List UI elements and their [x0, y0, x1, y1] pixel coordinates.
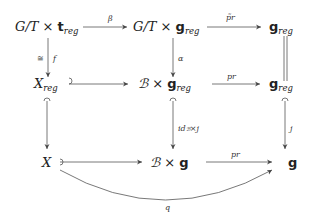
subscript: reg — [43, 83, 58, 93]
node-text: × — [160, 155, 179, 170]
frak-g: g — [179, 155, 188, 170]
node-greg-top: greg — [269, 20, 293, 33]
node-text: G/T × — [133, 19, 176, 34]
node-GT-x-greg: G/T × greg — [133, 20, 199, 33]
script-B: ℬ — [150, 155, 160, 170]
node-greg-mid: greg — [269, 77, 293, 90]
commutative-diagram: G/T × treg G/T × greg greg Xreg ℬ × greg… — [0, 0, 317, 220]
node-text: G/T × — [15, 19, 58, 34]
subscript: reg — [64, 26, 79, 36]
node-B-x-greg: ℬ × greg — [138, 77, 191, 90]
frak-t: t — [58, 19, 64, 34]
label-beta: β — [108, 15, 113, 23]
node-X: X — [42, 156, 51, 169]
subscript: reg — [278, 83, 293, 93]
label-times-j: ×j — [190, 124, 199, 133]
node-GT-x-treg: G/T × treg — [15, 20, 78, 33]
label-id-B-x-j: idℬ×j — [178, 125, 199, 133]
subscript: reg — [185, 26, 200, 36]
node-g: g — [288, 156, 297, 169]
node-Xreg: Xreg — [34, 77, 58, 90]
hook-j — [282, 98, 288, 101]
script-B: ℬ — [138, 76, 148, 91]
label-j: j — [290, 125, 292, 133]
node-text: X — [34, 76, 43, 91]
label-id: id — [178, 124, 186, 133]
subscript: reg — [278, 26, 293, 36]
hook-inc2 — [44, 98, 50, 101]
label-f: f — [53, 55, 56, 63]
frak-g: g — [288, 155, 297, 170]
hook-inc1 — [69, 78, 72, 84]
node-text: × — [148, 76, 167, 91]
label-pr-tilde: p̃r — [226, 14, 235, 22]
subscript: reg — [176, 83, 191, 93]
label-alpha: α — [178, 55, 183, 63]
frak-g: g — [269, 76, 278, 91]
node-text: X — [42, 155, 51, 170]
label-pr-1: pr — [227, 73, 236, 81]
label-q: q — [165, 204, 170, 212]
hook-idj — [170, 98, 176, 101]
label-iso: ≅ — [37, 55, 44, 63]
label-pr-2: pr — [231, 151, 240, 159]
frak-g: g — [176, 19, 185, 34]
node-B-x-g: ℬ × g — [150, 156, 188, 169]
arrow-q — [60, 170, 272, 200]
frak-g: g — [269, 19, 278, 34]
